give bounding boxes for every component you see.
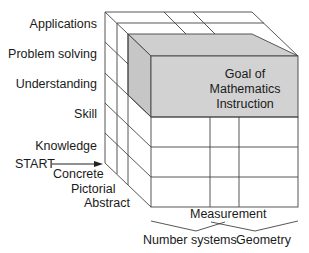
level-label-understanding: Understanding (16, 77, 97, 91)
goal-label-line1: Goal of (195, 67, 295, 82)
level-label-problem-solving: Problem solving (8, 47, 97, 61)
goal-label: Goal of Mathematics Instruction (195, 67, 295, 112)
cube-diagram: Goal of Mathematics Instruction Applicat… (0, 0, 309, 253)
content-label-measurement: Measurement (190, 207, 266, 221)
front-face-grid (151, 117, 298, 207)
level-label-knowledge: Knowledge (35, 139, 97, 153)
goal-label-line2: Mathematics (195, 82, 295, 97)
depth-label-abstract: Abstract (84, 196, 130, 210)
content-label-number-systems: Number systems (143, 233, 237, 247)
level-label-applications: Applications (30, 17, 97, 31)
content-label-geometry: Geometry (236, 233, 291, 247)
depth-label-concrete: Concrete (53, 167, 104, 181)
depth-label-pictorial: Pictorial (71, 182, 115, 196)
start-label: START (15, 157, 55, 171)
goal-block-top-face (128, 34, 298, 56)
level-label-skill: Skill (74, 107, 97, 121)
goal-label-line3: Instruction (195, 97, 295, 112)
